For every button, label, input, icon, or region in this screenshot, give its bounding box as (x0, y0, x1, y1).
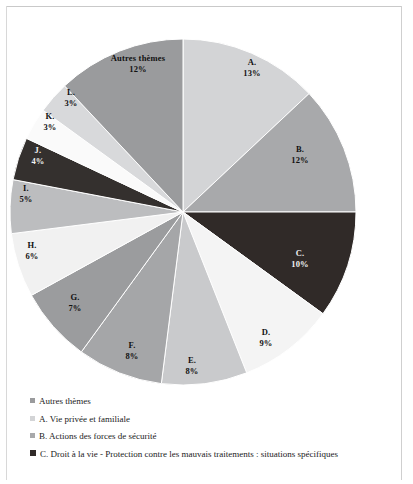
pie-slice-label-name: K. (45, 111, 54, 121)
pie-slice-label-name: F. (129, 340, 136, 350)
pie-slice-label-k: K.3% (10, 111, 90, 132)
pie-slice-label-name: E. (188, 355, 196, 365)
legend-item-1: A. Vie privée et familiale (30, 414, 398, 424)
pie-slice-label-d: D.9% (226, 327, 306, 348)
legend-item-3: C. Droit à la vie - Protection contre le… (30, 449, 398, 459)
pie-slice-label-percent: 5% (0, 194, 66, 205)
pie-slice-label-name: C. (296, 248, 305, 258)
legend-item-label: Autres thèmes (39, 396, 91, 406)
legend-item-label: B. Actions des forces de sécurité (39, 431, 156, 441)
legend-item-2: B. Actions des forces de sécurité (30, 431, 398, 441)
pie-slice-label-percent: 12% (260, 155, 340, 166)
document-page: A.13%B.12%C.10%D.9%E.8%F.8%G.7%H.6%I.5%J… (0, 0, 413, 484)
pie-chart: A.13%B.12%C.10%D.9%E.8%F.8%G.7%H.6%I.5%J… (0, 0, 413, 392)
pie-slice-label-autres: Autres thèmes12% (98, 53, 178, 74)
pie-slice-label-percent: 9% (226, 338, 306, 349)
legend-swatch-icon (30, 398, 35, 403)
legend-swatch-icon (30, 450, 36, 456)
pie-slice-label-name: H. (27, 240, 36, 250)
legend-item-label: C. Droit à la vie - Protection contre le… (40, 449, 338, 459)
pie-slice-label-i: I.5% (0, 183, 66, 204)
pie-slice-label-percent: 8% (92, 351, 172, 362)
pie-slice-label-percent: 4% (0, 156, 78, 167)
pie-slice-label-a: A.13% (212, 57, 292, 78)
pie-slice-label-name: G. (70, 292, 79, 302)
pie-slice-label-name: A. (248, 57, 257, 67)
chart-legend: Autres thèmesA. Vie privée et familialeB… (30, 396, 398, 466)
pie-slice-label-percent: 12% (98, 64, 178, 75)
pie-slice-label-percent: 7% (35, 303, 115, 314)
pie-slice-label-name: B. (296, 144, 304, 154)
pie-slice-label-j: J.4% (0, 145, 78, 166)
pie-slice-label-percent: 3% (10, 122, 90, 133)
legend-item-label: A. Vie privée et familiale (39, 414, 130, 424)
pie-slice-label-l: L.3% (31, 87, 111, 108)
pie-slice-label-g: G.7% (35, 292, 115, 313)
pie-slice-label-f: F.8% (92, 340, 172, 361)
pie-slice-label-b: B.12% (260, 144, 340, 165)
legend-swatch-icon (30, 433, 35, 438)
legend-swatch-icon (30, 416, 35, 421)
pie-slice-label-percent: 10% (260, 259, 340, 270)
pie-slice-label-name: J. (35, 145, 42, 155)
pie-slice-label-name: D. (262, 327, 271, 337)
pie-slice-label-name: I. (23, 183, 29, 193)
pie-slice-label-percent: 6% (0, 251, 72, 262)
pie-slice-label-name: L. (67, 87, 75, 97)
pie-slice-label-percent: 3% (31, 98, 111, 109)
pie-slice-label-c: C.10% (260, 248, 340, 269)
pie-slice-label-name: Autres thèmes (111, 53, 166, 63)
pie-slice-label-percent: 13% (212, 68, 292, 79)
pie-slice-label-h: H.6% (0, 240, 72, 261)
legend-item-0: Autres thèmes (30, 396, 398, 406)
pie-slice-label-percent: 8% (152, 366, 232, 377)
